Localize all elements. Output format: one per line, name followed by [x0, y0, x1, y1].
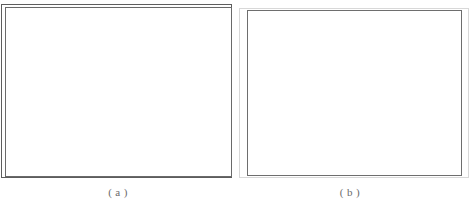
- figure-container: ( a ) ( b ): [0, 0, 473, 208]
- panel-a-image-area: [7, 9, 230, 175]
- panel-b-caption: ( b ): [280, 183, 420, 201]
- panel-b-image-area: [249, 12, 460, 174]
- figure-panel-b: [239, 8, 470, 179]
- figure-panel-a: [1, 3, 234, 179]
- panel-a-caption: ( a ): [48, 183, 188, 201]
